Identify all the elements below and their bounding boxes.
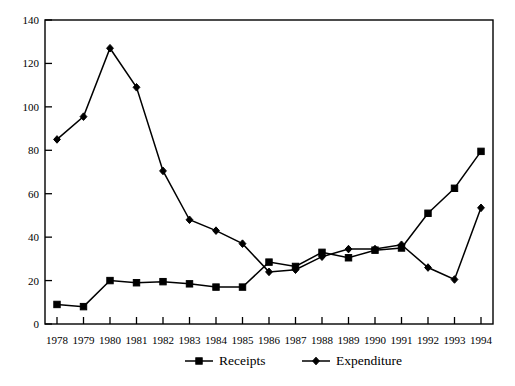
chart-container: 020406080100120140 197819791980198119821… (0, 0, 515, 386)
x-axis-tick-label: 1986 (258, 334, 281, 346)
x-axis-tick-label: 1993 (444, 334, 467, 346)
data-point (186, 281, 192, 287)
data-point (345, 255, 351, 261)
series-line (57, 151, 481, 306)
x-axis-tick-label: 1989 (338, 334, 361, 346)
data-point (451, 185, 457, 191)
legend-marker-square-icon (196, 358, 202, 364)
data-point (425, 210, 431, 216)
data-point (107, 277, 113, 283)
y-axis-tick-label: 100 (23, 101, 40, 113)
x-axis-tick-labels: 1978197919801981198219831984198519861987… (46, 334, 493, 346)
x-axis-tick-label: 1978 (46, 334, 69, 346)
data-point (266, 259, 272, 265)
x-axis-tick-label: 1988 (311, 334, 334, 346)
x-axis-tick-label: 1987 (285, 334, 308, 346)
data-point (160, 167, 167, 175)
data-point (478, 204, 485, 212)
data-point (239, 284, 245, 290)
line-chart: 020406080100120140 197819791980198119821… (0, 0, 515, 386)
data-point (80, 303, 86, 309)
data-point (345, 245, 352, 253)
data-series-layer (54, 44, 485, 309)
data-point (478, 148, 484, 154)
data-point (213, 227, 220, 235)
y-axis-tick-label: 60 (28, 188, 40, 200)
y-axis-ticks (45, 20, 52, 324)
data-point (213, 284, 219, 290)
legend-item-receipts[interactable]: Receipts (185, 353, 266, 368)
x-axis-tick-label: 1992 (417, 334, 439, 346)
y-axis-tick-label: 20 (28, 275, 40, 287)
y-axis-tick-label: 0 (34, 318, 40, 330)
x-axis-tick-label: 1984 (205, 334, 228, 346)
x-axis-tick-label: 1985 (232, 334, 255, 346)
legend-item-expenditure[interactable]: Expenditure (302, 353, 402, 368)
x-axis-tick-label: 1980 (99, 334, 122, 346)
x-axis-tick-label: 1981 (126, 334, 148, 346)
y-axis-tick-label: 140 (23, 14, 40, 26)
data-point (451, 276, 458, 284)
y-axis-tick-label: 40 (28, 231, 40, 243)
chart-legend: ReceiptsExpenditure (185, 353, 402, 368)
x-axis-ticks (57, 317, 481, 324)
x-axis-tick-label: 1982 (152, 334, 174, 346)
y-axis-tick-label: 80 (28, 144, 40, 156)
x-axis-tick-label: 1983 (179, 334, 202, 346)
series-receipts (54, 148, 484, 310)
series-expenditure (54, 44, 485, 283)
x-axis-tick-label: 1979 (73, 334, 96, 346)
data-point (160, 278, 166, 284)
x-axis-tick-label: 1990 (364, 334, 387, 346)
data-point (186, 216, 193, 224)
x-axis-tick-label: 1994 (470, 334, 493, 346)
data-point (54, 301, 60, 307)
legend-label: Expenditure (336, 353, 402, 368)
legend-marker-diamond-icon (313, 357, 320, 365)
y-axis-tick-label: 120 (23, 57, 40, 69)
x-axis-tick-label: 1991 (391, 334, 413, 346)
series-line (57, 48, 481, 279)
data-point (133, 280, 139, 286)
y-axis-tick-labels: 020406080100120140 (23, 14, 40, 330)
legend-label: Receipts (219, 353, 266, 368)
